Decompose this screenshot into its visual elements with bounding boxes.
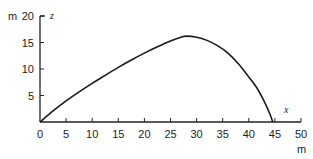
- y-axis-label: z: [49, 10, 54, 21]
- y-ticks: 5101520: [22, 10, 44, 102]
- y-tick-label: 20: [22, 10, 34, 22]
- x-tick-label: 10: [86, 128, 98, 140]
- trajectory-line: [40, 36, 273, 122]
- x-tick-label: 5: [63, 128, 69, 140]
- x-tick-label: 45: [269, 128, 281, 140]
- x-axis-unit: m: [297, 143, 306, 155]
- x-axis-label: x: [283, 104, 289, 115]
- y-tick-label: 5: [28, 90, 34, 102]
- axes: [40, 16, 301, 122]
- x-tick-label: 25: [164, 128, 176, 140]
- x-ticks: 05101520253035404550: [37, 118, 307, 140]
- x-tick-label: 35: [217, 128, 229, 140]
- y-tick-label: 10: [22, 63, 34, 75]
- series-group: [40, 36, 273, 122]
- x-tick-label: 50: [295, 128, 307, 140]
- trajectory-chart: 05101520253035404550 5101520 x z m m: [0, 0, 313, 159]
- x-tick-label: 0: [37, 128, 43, 140]
- x-tick-label: 15: [112, 128, 124, 140]
- x-tick-label: 40: [243, 128, 255, 140]
- x-tick-label: 30: [190, 128, 202, 140]
- x-tick-label: 20: [138, 128, 150, 140]
- y-tick-label: 15: [22, 37, 34, 49]
- y-axis-unit: m: [8, 10, 17, 22]
